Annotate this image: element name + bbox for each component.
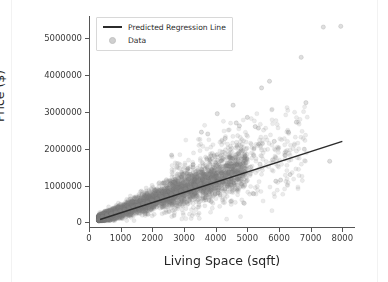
x-tick [342,228,343,232]
legend-line-icon [102,26,122,28]
scatter-plot-figure: 010002000300040005000600070008000 010000… [0,0,388,282]
y-tick-label: 2000000 [44,144,82,153]
page-edge-right [377,0,378,282]
x-tick-label: 5000 [237,234,259,243]
x-tick [279,228,280,232]
y-tick-label: 4000000 [44,71,82,80]
plot-axes: 010002000300040005000600070008000 010000… [89,16,355,228]
x-tick [247,228,248,232]
x-axis-spine [89,227,355,228]
y-tick [85,112,89,113]
chart-legend: Predicted Regression Line Data [96,17,233,51]
y-tick-label: 5000000 [44,34,82,43]
y-axis-label: Price ($) [0,70,7,122]
y-tick [85,38,89,39]
legend-item-data: Data [102,34,226,46]
x-tick-label: 0 [86,234,91,243]
legend-item-regression-line: Predicted Regression Line [102,21,226,33]
x-tick-label: 3000 [173,234,195,243]
y-tick-label: 1000000 [44,181,82,190]
x-tick-label: 7000 [300,234,322,243]
x-axis-label: Living Space (sqft) [89,253,355,268]
x-tick [311,228,312,232]
page-edge-left [11,0,12,282]
y-tick-label: 3000000 [44,108,82,117]
x-tick [89,228,90,232]
x-tick [184,228,185,232]
x-tick [216,228,217,232]
x-tick [152,228,153,232]
x-tick-label: 4000 [205,234,227,243]
x-tick-label: 6000 [268,234,290,243]
x-tick-label: 8000 [332,234,354,243]
x-tick-label: 2000 [142,234,164,243]
legend-label-regression-line: Predicted Regression Line [128,23,226,32]
y-axis-spine [89,16,90,228]
legend-label-data: Data [128,36,146,45]
y-tick [85,149,89,150]
x-tick [121,228,122,232]
y-tick-label: 0 [77,218,82,227]
y-tick [85,75,89,76]
y-tick [85,222,89,223]
x-tick-label: 1000 [110,234,132,243]
y-tick [85,186,89,187]
legend-dot-icon [102,37,122,44]
